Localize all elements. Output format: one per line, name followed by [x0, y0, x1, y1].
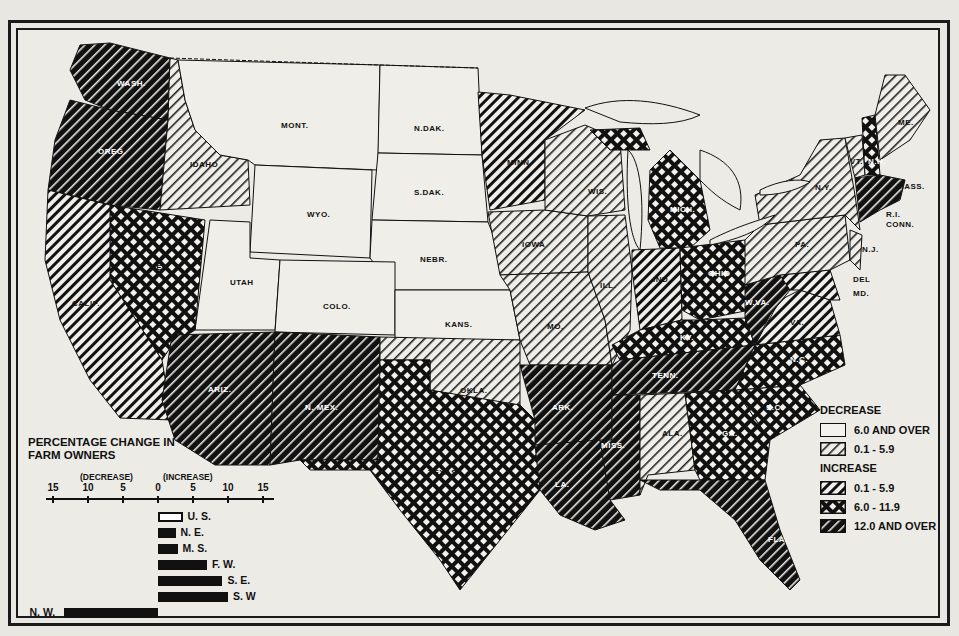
- legend-item-inc-12-plus: 12.0 AND OVER: [820, 516, 945, 535]
- label-idaho: IDAHO: [190, 160, 218, 169]
- tick-label: 10: [82, 482, 93, 493]
- tick-mark: [192, 496, 194, 503]
- lake-michigan: [627, 150, 642, 250]
- tick-label: 10: [222, 482, 233, 493]
- label-del: DEL: [853, 275, 871, 284]
- label-wash: WASH.: [117, 79, 146, 88]
- lake-huron: [700, 150, 741, 210]
- tick-label: 15: [257, 482, 268, 493]
- label-ill: ILL.: [600, 281, 616, 290]
- label-ohio: OHIO: [708, 269, 730, 278]
- bar-label: N. W.: [30, 606, 56, 618]
- lake-superior: [585, 101, 700, 124]
- bar-label: S. W: [233, 590, 256, 602]
- label-nmex: N. MEX.: [305, 403, 338, 412]
- legend-swatch-medium-hatch: [820, 481, 846, 495]
- chart-title-line1: PERCENTAGE CHANGE IN: [28, 436, 288, 449]
- label-pa: PA.: [795, 240, 809, 249]
- state-colo: [275, 260, 395, 335]
- map-legend: DECREASE 6.0 AND OVER 0.1 - 5.9 INCREASE…: [820, 402, 945, 535]
- tick-label: 0: [155, 482, 161, 493]
- legend-label: 0.1 - 5.9: [854, 482, 894, 494]
- tick-mark: [122, 496, 124, 503]
- x-axis: [46, 498, 274, 500]
- state-nj: [850, 230, 862, 270]
- bar-ne: [158, 528, 176, 538]
- label-wva: W.VA.: [745, 298, 770, 307]
- tick-mark: [227, 496, 229, 503]
- legend-decrease-heading: DECREASE: [820, 404, 945, 416]
- chart-title: PERCENTAGE CHANGE IN FARM OWNERS: [28, 436, 288, 462]
- label-texas: TEXAS: [428, 468, 457, 477]
- state-ndak: [378, 65, 482, 155]
- bar-nw: [64, 608, 159, 618]
- label-ky: KY.: [680, 333, 694, 342]
- label-mich: MICH.: [670, 205, 695, 214]
- farm-owners-bar-chart: PERCENTAGE CHANGE IN FARM OWNERS (DECREA…: [28, 436, 288, 616]
- label-fla: FLA.: [768, 535, 788, 544]
- chart-title-line2: FARM OWNERS: [28, 449, 288, 462]
- label-ind: IND.: [653, 275, 671, 284]
- bar-label: F. W.: [212, 558, 235, 570]
- label-oreg: OREG.: [98, 147, 126, 156]
- label-la: LA.: [555, 480, 569, 489]
- label-wyo: WYO.: [307, 210, 330, 219]
- tick-label: 15: [47, 482, 58, 493]
- tick-mark: [87, 496, 89, 503]
- label-miss: MISS.: [601, 441, 625, 450]
- legend-swatch-dark-hatch: [820, 519, 846, 533]
- label-colo: COLO.: [323, 302, 351, 311]
- label-sdak: S.DAK.: [414, 188, 444, 197]
- state-kans: [395, 290, 520, 340]
- label-ndak: N.DAK.: [414, 124, 445, 133]
- tick-label: 5: [120, 482, 126, 493]
- legend-label: 0.1 - 5.9: [854, 443, 894, 455]
- label-nc: N.C.: [790, 355, 808, 364]
- legend-label: 12.0 AND OVER: [854, 520, 936, 532]
- state-ind: [632, 248, 682, 330]
- label-tenn: TENN.: [652, 371, 679, 380]
- label-kans: KANS.: [445, 320, 472, 329]
- label-ark: ARK.: [552, 403, 574, 412]
- label-minn: MINN.: [507, 158, 532, 167]
- tick-mark: [157, 496, 159, 503]
- label-mo: MO.: [547, 322, 564, 331]
- label-wis: WIS.: [588, 187, 607, 196]
- label-utah: UTAH: [230, 278, 254, 287]
- bar-fw: [158, 560, 207, 570]
- label-me: ME.: [898, 118, 914, 127]
- legend-swatch-blank: [820, 423, 846, 437]
- legend-item-dec-0-1-5-9: 0.1 - 5.9: [820, 439, 945, 458]
- legend-item-inc-6-11-9: 6.0 - 11.9: [820, 497, 945, 516]
- label-nh: N.H.: [868, 157, 886, 166]
- legend-label: 6.0 - 11.9: [854, 501, 900, 513]
- label-nev: NEV.: [150, 263, 170, 272]
- legend-swatch-crosshatch: [820, 500, 846, 514]
- label-okla: OKLA.: [460, 386, 487, 395]
- tick-mark: [262, 496, 264, 503]
- label-iowa: IOWA: [522, 240, 545, 249]
- label-ga: GA.: [722, 429, 738, 438]
- bar-label: M. S.: [183, 542, 208, 554]
- label-md: MD.: [853, 289, 869, 298]
- legend-item-inc-0-1-5-9: 0.1 - 5.9: [820, 478, 945, 497]
- label-ariz: ARIZ.: [208, 385, 231, 394]
- bar-us: [158, 512, 183, 522]
- axis-label-decrease: (DECREASE): [80, 472, 133, 482]
- label-nebr: NEBR.: [420, 255, 447, 264]
- legend-swatch-light-hatch: [820, 442, 846, 456]
- state-ohio: [680, 240, 750, 320]
- bar-label: N. E.: [181, 526, 204, 538]
- label-mont: MONT.: [281, 121, 308, 130]
- label-va: VA.: [790, 318, 804, 327]
- label-mass: MASS.: [897, 182, 925, 191]
- label-ala: ALA.: [662, 429, 683, 438]
- label-conn: CONN.: [886, 220, 914, 229]
- axis-label-increase: (INCREASE): [163, 472, 213, 482]
- bar-se: [158, 576, 222, 586]
- label-calif: CALIF.: [72, 299, 100, 308]
- label-vt: VT.: [850, 157, 863, 166]
- label-ny: N.Y.: [815, 183, 832, 192]
- label-sc: S.C.: [766, 403, 784, 412]
- label-ri: R.I.: [886, 210, 900, 219]
